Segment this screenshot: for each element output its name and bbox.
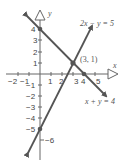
x-axis-arrow-icon xyxy=(108,69,118,79)
x-axis: x −2 −1 1 2 3 4 5 xyxy=(6,61,118,86)
point-4-0 xyxy=(82,72,87,77)
y-tick-label: −4 xyxy=(26,114,36,123)
x-tick-label: −2 xyxy=(8,77,18,86)
y-tick-label: 4 xyxy=(31,25,36,34)
x-tick-label: 3 xyxy=(74,77,79,86)
y-tick-label: −5 xyxy=(26,125,36,134)
intersection-point xyxy=(70,60,75,65)
y-tick-label: 3 xyxy=(33,36,38,45)
y-axis-label: y xyxy=(47,9,52,18)
line1-label: x + y = 4 xyxy=(84,97,115,106)
point-0-4 xyxy=(38,27,43,32)
x-axis-label: x xyxy=(112,61,117,70)
point-0-neg5 xyxy=(38,127,43,132)
y-tick-label: −2 xyxy=(26,92,36,101)
y-axis-arrow-icon xyxy=(35,10,45,20)
x-tick-label: 5 xyxy=(96,77,101,86)
line2-label: 2x − y = 5 xyxy=(80,19,114,28)
y-tick-label: −3 xyxy=(26,103,36,112)
y-tick-label: 2 xyxy=(33,48,38,57)
graph: x −2 −1 1 2 3 4 5 y 4 3 2 1 −1 xyxy=(0,0,126,163)
y-tick-label: 1 xyxy=(33,59,38,68)
intersection-label: (3, 1) xyxy=(80,55,98,64)
y-tick-label: −1 xyxy=(26,81,36,90)
x-tick-label: 1 xyxy=(48,77,53,86)
line-2x-minus-y-eq-5 xyxy=(28,26,92,153)
y-tick-label: −6 xyxy=(45,136,55,145)
x-tick-label: 4 xyxy=(81,77,86,86)
